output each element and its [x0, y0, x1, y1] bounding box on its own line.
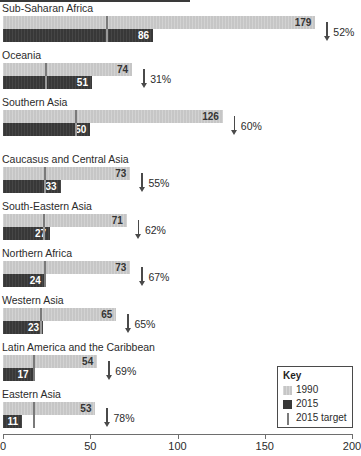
target-line-2015	[33, 355, 35, 368]
reduction-percent: 65%	[134, 318, 155, 330]
reduction-annotation: 67%	[138, 262, 169, 292]
reduction-percent: 60%	[241, 120, 262, 132]
bar-value-2015: 86	[138, 29, 149, 42]
region-label: Southern Asia	[2, 96, 67, 109]
x-axis-tick	[3, 434, 4, 439]
reduction-annotation: 62%	[135, 215, 166, 245]
arrow-down-icon	[138, 172, 145, 194]
bar-2015[interactable]: 86	[3, 29, 153, 42]
chart-row-group: Western Asia652365%	[0, 294, 356, 334]
x-axis-tick	[90, 434, 91, 439]
region-label: Caucasus and Central Asia	[2, 153, 129, 166]
chart-row-group: Caucasus and Central Asia733355%	[0, 153, 356, 193]
bar-row-2015: 24	[0, 274, 356, 287]
bar-row-1990: 65	[0, 308, 356, 321]
bar-1990[interactable]: 179	[3, 16, 315, 29]
region-label: Oceania	[2, 49, 41, 62]
reduction-annotation: 52%	[323, 17, 354, 47]
bar-1990[interactable]: 71	[3, 214, 127, 227]
legend-item-1990: 1990	[283, 383, 352, 397]
legend-label-2015: 2015	[296, 397, 318, 411]
x-axis-tick-label: 200	[343, 440, 361, 452]
bar-value-2015: 11	[8, 415, 19, 428]
chart-row-group: Sub-Saharan Africa1798652%	[0, 2, 356, 42]
bar-2015[interactable]: 33	[3, 180, 61, 193]
reduction-percent: 62%	[145, 224, 166, 236]
chart-row-group: Oceania745131%	[0, 49, 356, 89]
bar-row-2015: 27	[0, 227, 356, 240]
reduction-annotation: 65%	[124, 309, 155, 339]
target-line-2015	[43, 227, 45, 240]
target-line-2015	[33, 415, 35, 428]
target-line-2015	[40, 308, 42, 321]
bar-1990[interactable]: 54	[3, 355, 97, 368]
bar-value-1990: 53	[80, 402, 91, 415]
bar-value-2015: 23	[28, 321, 39, 334]
region-label: Sub-Saharan Africa	[2, 2, 93, 15]
target-line-2015	[44, 274, 46, 287]
reduction-annotation: 78%	[103, 403, 134, 433]
reduction-annotation: 31%	[140, 64, 171, 94]
target-line-2015	[106, 29, 108, 42]
x-axis-tick	[265, 434, 266, 439]
chart-row-group: Northern Africa732467%	[0, 247, 356, 287]
reduction-percent: 69%	[115, 365, 136, 377]
region-label: Latin America and the Caribbean	[2, 341, 155, 354]
chart-row-group: Southern Asia1265060%	[0, 96, 356, 136]
x-axis-tick-label: 50	[84, 440, 96, 452]
bar-row-1990: 71	[0, 214, 356, 227]
legend-label-1990: 1990	[296, 383, 318, 397]
x-axis: 050100150200	[0, 434, 356, 456]
bar-value-1990: 54	[82, 355, 93, 368]
x-axis-tick-label: 0	[0, 440, 6, 452]
bar-value-1990: 73	[115, 261, 126, 274]
legend-item-2015-target: 2015 target	[283, 411, 352, 425]
target-line-2015	[106, 16, 108, 29]
arrow-down-icon	[231, 115, 238, 137]
region-label: Western Asia	[2, 294, 64, 307]
bar-2015[interactable]: 51	[3, 76, 92, 89]
bar-row-2015: 51	[0, 76, 356, 89]
reduction-percent: 52%	[333, 26, 354, 38]
legend-item-2015: 2015	[283, 397, 352, 411]
arrow-down-icon	[138, 266, 145, 288]
bar-1990[interactable]: 65	[3, 308, 116, 321]
legend-label-2015-target: 2015 target	[296, 411, 347, 425]
target-line-2015	[75, 110, 77, 123]
target-line-2015	[44, 261, 46, 274]
bar-2015[interactable]: 23	[3, 321, 43, 334]
chart-row-group: South-Eastern Asia712762%	[0, 200, 356, 240]
bar-value-1990: 126	[202, 110, 219, 123]
bar-value-2015: 51	[77, 76, 88, 89]
bar-1990[interactable]: 74	[3, 63, 132, 76]
region-label: Eastern Asia	[2, 388, 61, 401]
bar-1990[interactable]: 126	[3, 110, 223, 123]
x-axis-tick	[178, 434, 179, 439]
arrow-down-icon	[135, 219, 142, 241]
bar-1990[interactable]: 73	[3, 167, 130, 180]
bar-value-1990: 71	[112, 214, 123, 227]
bar-row-1990: 179	[0, 16, 356, 29]
reduction-percent: 31%	[150, 73, 171, 85]
bar-row-2015: 23	[0, 321, 356, 334]
bar-1990[interactable]: 73	[3, 261, 130, 274]
target-line-2015	[33, 368, 35, 381]
reduction-percent: 55%	[148, 177, 169, 189]
bar-2015[interactable]: 24	[3, 274, 45, 287]
bar-row-1990: 74	[0, 63, 356, 76]
legend-swatch-target-line-icon	[283, 414, 292, 423]
region-label: Northern Africa	[2, 247, 72, 260]
arrow-down-icon	[124, 313, 131, 335]
bar-1990[interactable]: 53	[3, 402, 95, 415]
x-axis-tick-label: 150	[256, 440, 274, 452]
arrow-down-icon	[105, 360, 112, 382]
bar-row-2015: 50	[0, 123, 356, 136]
bar-2015[interactable]: 11	[3, 415, 22, 428]
target-line-2015	[33, 402, 35, 415]
target-line-2015	[44, 180, 46, 193]
bar-2015[interactable]: 17	[3, 368, 33, 381]
bar-value-2015: 17	[18, 368, 29, 381]
bar-row-1990: 73	[0, 261, 356, 274]
target-line-2015	[40, 321, 42, 334]
